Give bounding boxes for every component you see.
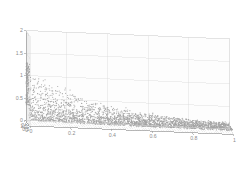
y-tick-label-4: 2 (21, 122, 24, 128)
z-tick-label-3: 1.5 (16, 50, 23, 56)
z-tick-label-2: 1 (20, 72, 23, 78)
x-tick-label-3: 0.6 (149, 133, 156, 139)
z-tick-label-1: 0.5 (16, 95, 23, 101)
z-tick-label-4: 2 (20, 27, 23, 33)
x-tick-label-2: 0.4 (109, 132, 116, 138)
x-tick-label-0: 0 (30, 128, 33, 134)
figure-canvas: 00.511.5200.511.5200.20.40.60.81 (0, 0, 243, 173)
x-tick-label-5: 1 (233, 137, 236, 143)
x-tick-label-4: 0.8 (190, 135, 197, 141)
scatter-3d-plot: 00.511.5200.511.5200.20.40.60.81 (0, 0, 243, 173)
x-tick-label-1: 0.2 (68, 130, 75, 136)
